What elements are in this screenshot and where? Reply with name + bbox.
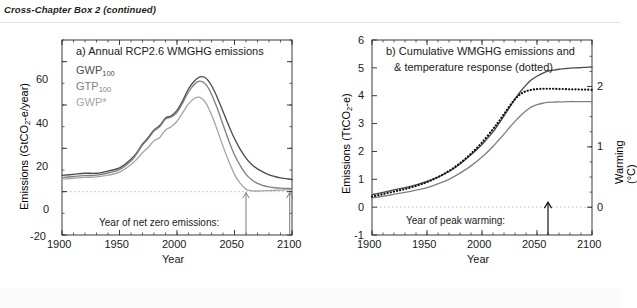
panel-a-title: a) Annual RCP2.6 WMGHG emissions xyxy=(76,45,264,57)
panel-b-yaxis-label: Emissions (TtCO2-e) xyxy=(340,93,354,194)
panel-a-annotation: Year of net zero emissions: xyxy=(99,217,219,228)
panel-a-ytick-60: 60 xyxy=(36,73,48,85)
panel-a-yaxis-label: Emissions (GtCO2-e/year) xyxy=(18,83,32,210)
panel-b-cumulative-emissions: -1 0 1 2 3 4 5 6 0 1 2 1900 1950 2000 20… xyxy=(310,24,620,288)
panel-b-ytick-right-0: 0 xyxy=(597,201,603,213)
legend-item-gwpstar: GWP* xyxy=(76,96,107,108)
header-title: Cross-Chapter Box 2 (continued) xyxy=(4,4,156,15)
panel-a-yaxis-label-end: -e/year) xyxy=(18,83,30,121)
panel-b-curve-gwp100-cumulative xyxy=(372,67,592,195)
panel-b-title-line1: b) Cumulative WMGHG emissions and xyxy=(386,45,575,57)
panel-a-xtick-1950: 1950 xyxy=(105,238,129,250)
panel-b-xtick-2100: 2100 xyxy=(577,238,601,250)
legend-label-gtp100: GTP xyxy=(76,80,99,92)
panel-b-ytick-6: 6 xyxy=(358,34,364,46)
panel-a-xtick-2050: 2050 xyxy=(220,238,244,250)
panel-b-annotation: Year of peak warming: xyxy=(406,215,505,226)
panel-b-ytick-1: 1 xyxy=(358,173,364,185)
panel-b-ytick-4: 4 xyxy=(358,89,364,101)
page-header: Cross-Chapter Box 2 (continued) xyxy=(0,0,620,24)
panel-b-ytick-right-2: 2 xyxy=(597,80,603,92)
panel-a-ytick-0: 0 xyxy=(43,203,49,215)
panel-a-arrow-2060 xyxy=(243,193,249,235)
panel-b-yaxis-label-main: Emissions (TtCO xyxy=(340,111,352,194)
panel-a-ytick-40: 40 xyxy=(36,117,48,129)
panel-b-ytick-0: 0 xyxy=(358,201,364,213)
panel-b-xtick-1950: 1950 xyxy=(412,238,436,250)
panel-a-xaxis-label: Year xyxy=(162,253,184,265)
panel-b-yaxis-right-label: Warming (°C) xyxy=(613,140,637,184)
panel-b-title-line2: & temperature response (dotted) xyxy=(394,61,553,73)
legend-sub-gtp100: 100 xyxy=(99,85,111,94)
panel-a-xtick-2100: 2100 xyxy=(277,238,301,250)
footer-band xyxy=(0,288,620,308)
panel-b-curve-temperature-response xyxy=(372,89,592,197)
legend-item-gwp100: GWP100 xyxy=(76,64,115,78)
header-divider xyxy=(0,22,620,23)
panel-a-xtick-1900: 1900 xyxy=(47,238,71,250)
panel-b-ytick-5: 5 xyxy=(358,62,364,74)
panel-b-arrow-peak-warming xyxy=(544,202,551,235)
panel-b-yaxis-label-sub: 2 xyxy=(345,107,354,111)
legend-sub-gwp100: 100 xyxy=(102,69,114,78)
panel-a-yaxis-label-main: Emissions (GtCO xyxy=(18,125,30,210)
panel-b-ytick-2: 2 xyxy=(358,145,364,157)
panel-a-ytick--20: -20 xyxy=(30,230,46,242)
legend-item-gtp100: GTP100 xyxy=(76,80,111,94)
panel-b-yaxis-label-end: -e) xyxy=(340,93,352,106)
panel-a-yaxis-label-sub: 2 xyxy=(23,121,32,125)
legend-label-gwpstar: GWP* xyxy=(76,96,107,108)
panel-b-xtick-1900: 1900 xyxy=(357,238,381,250)
panel-b-ytick-3: 3 xyxy=(358,117,364,129)
figure-container: -20 0 20 40 60 1900 1950 2000 2050 2100 … xyxy=(0,24,620,288)
panel-b-xtick-2050: 2050 xyxy=(522,238,546,250)
panel-b-curve-gwp-cumulative xyxy=(372,102,592,198)
panel-b-xaxis-label: Year xyxy=(467,253,489,265)
panel-a-ytick-20: 20 xyxy=(36,160,48,172)
legend-label-gwp100: GWP xyxy=(76,64,102,76)
panel-a-xtick-2000: 2000 xyxy=(162,238,186,250)
panel-a-annual-emissions: -20 0 20 40 60 1900 1950 2000 2050 2100 … xyxy=(0,24,310,288)
panel-b-ytick-right-1: 1 xyxy=(597,140,603,152)
panel-b-xtick-2000: 2000 xyxy=(467,238,491,250)
